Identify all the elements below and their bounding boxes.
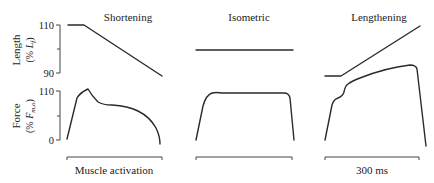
- bracket-isometric: [196, 157, 292, 160]
- force-axis: 110 0: [39, 86, 60, 146]
- force-unit: (% Fm,o): [24, 99, 37, 133]
- force-label: Force: [10, 103, 22, 128]
- force-tick-110: 110: [39, 86, 54, 97]
- lengthening-force-curve: [325, 65, 426, 146]
- length-tick-90: 90: [44, 68, 55, 79]
- shortening-force-curve: [67, 89, 160, 144]
- length-tick-110: 110: [39, 20, 54, 31]
- time-brackets: [67, 157, 419, 160]
- panel-lengthening: [325, 26, 426, 146]
- title-lengthening: Lengthening: [351, 11, 407, 23]
- panel-isometric: [196, 50, 294, 140]
- length-axis: 110 90: [39, 20, 60, 79]
- isometric-force-curve: [196, 93, 294, 141]
- bracket-lengthening: [325, 157, 419, 160]
- bracket-shortening: [67, 157, 162, 160]
- muscle-contraction-diagram: Length (% Lf) Force (% Fm,o) 110 90 110 …: [0, 0, 434, 183]
- title-isometric: Isometric: [228, 11, 270, 23]
- shortening-length-curve: [68, 25, 162, 76]
- length-axis-label: Length (% Lf): [10, 34, 37, 66]
- muscle-activation-label: Muscle activation: [75, 164, 154, 176]
- length-label: Length: [10, 34, 22, 66]
- force-axis-label: Force (% Fm,o): [10, 99, 37, 133]
- time-scale-label: 300 ms: [356, 164, 388, 176]
- force-tick-0: 0: [49, 135, 54, 146]
- lengthening-length-curve: [325, 26, 420, 76]
- length-unit: (% Lf): [24, 37, 37, 62]
- panel-shortening: [67, 25, 162, 144]
- title-shortening: Shortening: [104, 11, 153, 23]
